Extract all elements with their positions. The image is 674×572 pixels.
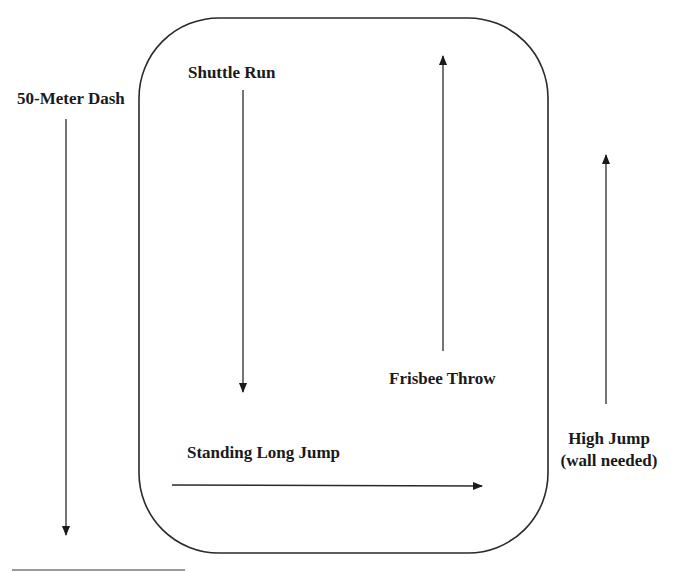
shuttle-run-label: Shuttle Run — [188, 64, 275, 81]
field-boundary — [139, 18, 548, 553]
field-diagram — [0, 0, 674, 572]
high-jump-label-group: High Jump (wall needed) — [561, 428, 658, 472]
high-jump-label: High Jump — [561, 428, 658, 450]
frisbee-throw-label: Frisbee Throw — [389, 370, 496, 387]
dash-label: 50-Meter Dash — [17, 90, 125, 107]
high-jump-sublabel: (wall needed) — [561, 450, 658, 472]
standing-long-jump-arrow — [172, 485, 482, 486]
standing-long-jump-label: Standing Long Jump — [187, 444, 340, 461]
